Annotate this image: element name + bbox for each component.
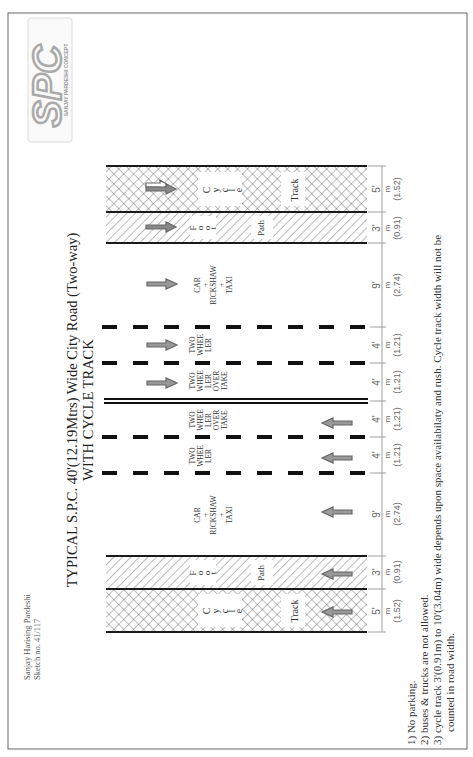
arrow-left-icon	[322, 453, 352, 463]
svg-text:4': 4'	[371, 341, 382, 349]
dim-5: 4'm(1.21)	[371, 370, 402, 394]
center-double-line	[104, 399, 368, 403]
svg-text:m: m	[383, 185, 392, 192]
note-3-cont: counted in road width.	[444, 633, 456, 732]
svg-text:LER: LER	[204, 338, 213, 352]
notes-block: 1) No parking. 2) buses & trucks are not…	[405, 235, 456, 745]
svg-text:m: m	[383, 607, 392, 614]
lane-label-car-top: CAR + RICKSHAW + TAXI	[193, 264, 234, 304]
svg-text:9': 9'	[371, 281, 382, 289]
svg-text:TAKE: TAKE	[220, 410, 229, 430]
svg-text:(1.21): (1.21)	[392, 407, 402, 431]
lane-label-two-wheeler-1: TWO WHEE LER	[188, 334, 213, 356]
svg-text:(1.21): (1.21)	[392, 333, 402, 357]
dim-2: 3'm(0.91)	[371, 216, 402, 240]
arrow-right-icon	[147, 279, 177, 289]
svg-text:4': 4'	[371, 415, 382, 423]
svg-text:3': 3'	[371, 568, 382, 576]
lane-label-overtake-2: TWO WHEE LER OVER TAKE	[188, 409, 229, 431]
note-3: 3) cycle track 3'(0.91m) to 10'(3.04m) w…	[431, 235, 444, 745]
svg-text:LER: LER	[204, 449, 213, 463]
arrow-right-icon	[147, 378, 177, 388]
svg-text:4': 4'	[371, 451, 382, 459]
dim-10: 5'm(1.52)	[371, 599, 402, 623]
svg-text:TAXI: TAXI	[225, 276, 234, 294]
arrow-right-icon	[147, 340, 177, 350]
author-block: Sanjay Harising Pardeshi Sketch no. 41/1…	[22, 593, 42, 680]
svg-text:m: m	[383, 224, 392, 231]
logo-tagline: SANJAY PARDESHI CONCEPT	[63, 44, 69, 116]
lane-label-car-bottom: CAR + RICKSHAW + TAXI	[193, 494, 234, 534]
svg-text:Path: Path	[256, 565, 266, 582]
svg-text:(0.91): (0.91)	[392, 216, 402, 240]
lane-label-two-wheeler-2: TWO WHEE LER	[188, 445, 213, 467]
note-2: 2) buses & trucks are not allowed.	[418, 594, 431, 745]
title-line-1: TYPICAL S.P.C. 40'(12.19Mtrs) Wide City …	[64, 233, 81, 588]
svg-text:m: m	[383, 281, 392, 288]
svg-text:3': 3'	[371, 224, 382, 232]
spc-logo: SPC SANJAY PARDESHI CONCEPT	[25, 18, 72, 142]
svg-text:5': 5'	[371, 607, 382, 615]
lane-label-overtake-1: TWO WHEE LER OVER TAKE	[188, 370, 229, 392]
dim-6: 4'm(1.21)	[371, 407, 402, 431]
arrow-left-icon	[322, 507, 352, 517]
title-line-2: WITH CYCLE TRACK	[80, 339, 96, 481]
svg-text:e: e	[233, 187, 244, 192]
svg-text:(1.21): (1.21)	[392, 370, 402, 394]
svg-text:TAKE: TAKE	[220, 371, 229, 391]
road-cross-section-drawing: SPC SANJAY PARDESHI CONCEPT Sanjay Haris…	[0, 0, 473, 757]
svg-text:e: e	[233, 608, 244, 613]
dimension-line	[368, 166, 386, 632]
svg-text:m: m	[383, 341, 392, 348]
dim-8: 9'm(2.74)	[371, 502, 402, 526]
svg-text:Path: Path	[256, 220, 266, 237]
svg-text:m: m	[383, 568, 392, 575]
svg-text:TAXI: TAXI	[225, 506, 234, 524]
svg-text:m: m	[383, 415, 392, 422]
title-block: TYPICAL S.P.C. 40'(12.19Mtrs) Wide City …	[64, 233, 96, 588]
svg-text:(1.52): (1.52)	[392, 599, 402, 623]
foot-path-top	[106, 212, 367, 243]
svg-text:Track: Track	[289, 179, 300, 202]
dim-1: 5'm(1.52)	[371, 177, 402, 201]
svg-text:(0.91): (0.91)	[392, 560, 402, 584]
svg-text:5': 5'	[371, 185, 382, 193]
arrow-left-icon	[322, 418, 352, 428]
author-name: Sanjay Harising Pardeshi	[22, 593, 32, 680]
dim-4: 4'm(1.21)	[371, 333, 402, 357]
dim-9: 3'm(0.91)	[371, 560, 402, 584]
svg-text:(1.21): (1.21)	[392, 443, 402, 467]
svg-text:4': 4'	[371, 378, 382, 386]
lane-dashes	[102, 327, 370, 473]
svg-text:9': 9'	[371, 510, 382, 518]
svg-text:(1.52): (1.52)	[392, 177, 402, 201]
svg-text:m: m	[383, 510, 392, 517]
note-1: 1) No parking.	[405, 680, 418, 745]
dim-7: 4'm(1.21)	[371, 443, 402, 467]
dim-3: 9'm(2.74)	[371, 273, 402, 297]
sketch-number: Sketch no. 41/117	[32, 619, 42, 680]
svg-text:m: m	[383, 451, 392, 458]
svg-text:m: m	[383, 378, 392, 385]
svg-text:(2.74): (2.74)	[392, 273, 402, 297]
svg-text:Track: Track	[289, 600, 300, 623]
svg-text:(2.74): (2.74)	[392, 502, 402, 526]
